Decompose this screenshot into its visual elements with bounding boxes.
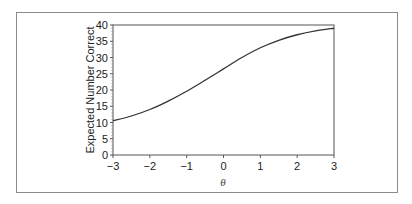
y-tick-label: 30 xyxy=(96,52,108,64)
y-axis: 0510152025303540 xyxy=(96,19,113,161)
plot-border xyxy=(113,25,334,155)
x-tick-label: −3 xyxy=(107,160,120,172)
x-tick-label: 3 xyxy=(331,160,337,172)
x-axis-title: θ xyxy=(220,176,226,188)
y-tick-label: 10 xyxy=(96,117,108,129)
x-tick-label: 0 xyxy=(220,160,226,172)
x-tick-label: −1 xyxy=(180,160,193,172)
y-tick-label: 20 xyxy=(96,84,108,96)
y-tick-label: 35 xyxy=(96,35,108,47)
x-tick-label: 1 xyxy=(257,160,263,172)
data-line xyxy=(113,28,334,121)
x-tick-label: −2 xyxy=(144,160,157,172)
y-axis-title: Expected Number Correct xyxy=(84,26,96,153)
line-chart: 0510152025303540 −3−2−10123 Expected Num… xyxy=(0,0,412,204)
y-tick-label: 40 xyxy=(96,19,108,31)
y-tick-label: 15 xyxy=(96,100,108,112)
y-tick-label: 5 xyxy=(102,133,108,145)
x-axis: −3−2−10123 xyxy=(107,155,337,172)
y-tick-label: 25 xyxy=(96,68,108,80)
x-tick-label: 2 xyxy=(294,160,300,172)
plot-area xyxy=(113,25,334,155)
